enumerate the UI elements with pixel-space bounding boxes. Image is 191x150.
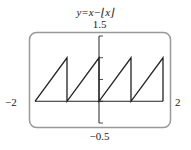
plot-area	[0, 0, 191, 150]
sawtooth-curve	[35, 58, 163, 102]
